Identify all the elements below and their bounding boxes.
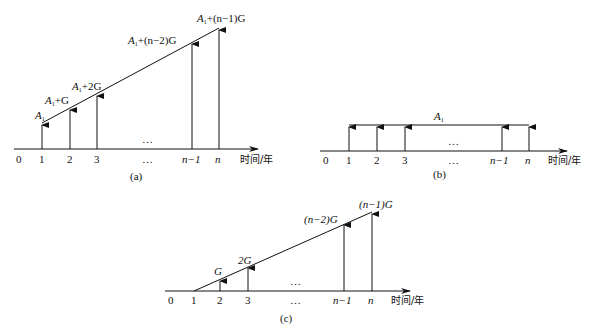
tick-1: 1	[346, 154, 352, 166]
tick-0: 0	[168, 294, 174, 306]
tick-2: 2	[217, 294, 223, 306]
tick-3: 3	[402, 154, 408, 166]
tick-n: n	[368, 294, 374, 306]
tick-2: 2	[374, 154, 380, 166]
tick-3: 3	[245, 294, 251, 306]
flow-label-2: G	[214, 265, 222, 277]
axis-label: 时间/年	[548, 154, 581, 166]
tick-1: 1	[191, 294, 197, 306]
axis-label: 时间/年	[391, 294, 424, 306]
flow-label-n-1: A1+(n−2)G	[127, 34, 176, 47]
flow-label-2: A1+G	[44, 94, 69, 107]
caption: (b)	[433, 168, 446, 181]
tick-0: 0	[16, 153, 22, 165]
tick-n-1: n−1	[182, 153, 200, 165]
diagram-c: G 2G (n−2)G (n−1)G … 0 1 2 3 … n−1 n 时间/…	[165, 198, 424, 325]
mid-ellipsis: …	[290, 275, 301, 287]
flow-label-n: A1+(n−1)G	[196, 12, 245, 25]
flow-label-n-1: (n−2)G	[304, 213, 338, 226]
tick-ellipsis: …	[290, 294, 301, 306]
flow-label-3: A1+2G	[71, 80, 101, 93]
diagram-b: A1 … 0 1 2 3 … n−1 n 时间/年 (b)	[320, 110, 581, 181]
tick-2: 2	[67, 153, 73, 165]
flow-label-1: A1	[34, 109, 45, 122]
axis-label: 时间/年	[240, 153, 273, 165]
tick-n-1: n−1	[333, 294, 351, 306]
tick-n-1: n−1	[490, 154, 508, 166]
tick-0: 0	[323, 154, 329, 166]
tick-ellipsis: …	[448, 154, 459, 166]
caption: (a)	[130, 170, 143, 183]
tick-1: 1	[39, 153, 45, 165]
tick-3: 3	[94, 153, 100, 165]
tick-n: n	[215, 153, 221, 165]
flow-label-n: (n−1)G	[359, 198, 393, 211]
cash-flow-diagrams: A1 A1+G A1+2G A1+(n−2)G A1+(n−1)G … 0 1 …	[0, 0, 592, 335]
tick-ellipsis: …	[142, 153, 153, 165]
mid-ellipsis: …	[448, 135, 459, 147]
uniform-label: A1	[433, 110, 444, 123]
caption: (c)	[280, 312, 293, 325]
gradient-line	[194, 212, 372, 291]
tick-n: n	[525, 154, 531, 166]
flow-label-3: 2G	[238, 254, 252, 266]
diagram-a: A1 A1+G A1+2G A1+(n−2)G A1+(n−1)G … 0 1 …	[14, 12, 273, 183]
mid-ellipsis: …	[142, 133, 153, 145]
